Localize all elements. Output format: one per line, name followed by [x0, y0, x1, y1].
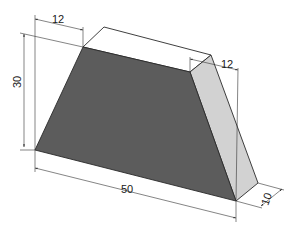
dimension-label-height: 30	[11, 76, 23, 88]
isometric-drawing: 12 30 12 50 10	[0, 0, 300, 242]
dimension-label-base-length: 50	[121, 183, 133, 195]
dimension-label-top-offset: 12	[52, 13, 64, 25]
prism-solid	[35, 27, 258, 201]
dimension-label-depth: 10	[259, 191, 274, 207]
dimension-label-top-right-offset: 12	[221, 58, 233, 70]
